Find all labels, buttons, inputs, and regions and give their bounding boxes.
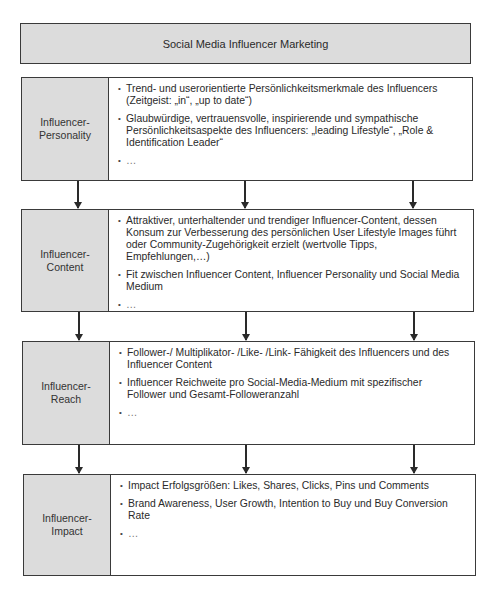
arrow-down-icon [245, 445, 247, 473]
diagram-title-box: Social Media Influencer Marketing [20, 23, 471, 64]
diagram-title: Social Media Influencer Marketing [163, 38, 329, 50]
layer-label-impact: Influencer- Impact [24, 475, 111, 575]
layer-label-content: Influencer- Content [22, 210, 109, 311]
arrow-down-icon [245, 312, 247, 340]
bullet-item-ellipsis: … [118, 155, 462, 167]
bullet-list: Impact Erfolgsgrößen: Likes, Shares, Cli… [120, 480, 465, 540]
bullet-item-ellipsis: … [120, 528, 465, 540]
arrow-down-icon [413, 312, 415, 340]
layer-content: Influencer- Content Attraktiver, unterha… [21, 209, 474, 312]
layer-impact: Influencer- Impact Impact Erfolgsgrößen:… [23, 474, 476, 576]
bullet-list: Follower-/ Multiplikator- /Like- /Link- … [119, 347, 464, 419]
layer-body-personality: Trend- und userorientierte Persönlichkei… [109, 78, 472, 180]
arrow-down-icon [78, 445, 80, 473]
bullet-item-ellipsis: … [118, 299, 463, 311]
bullet-item: Fit zwischen Influencer Content, Influen… [118, 269, 463, 293]
arrow-down-icon [412, 181, 414, 208]
arrow-down-icon [77, 181, 79, 208]
layer-body-impact: Impact Erfolgsgrößen: Likes, Shares, Cli… [111, 475, 475, 575]
arrow-down-icon [78, 312, 80, 340]
layer-label-reach: Influencer- Reach [23, 342, 110, 444]
layer-label-personality: Influencer- Personality [22, 78, 109, 180]
layer-body-content: Attraktiver, unterhaltender und trendige… [109, 210, 473, 311]
bullet-item: Glaubwürdige, vertrauensvolle, inspirier… [118, 113, 462, 149]
bullet-item: Impact Erfolgsgrößen: Likes, Shares, Cli… [120, 480, 465, 492]
layer-personality: Influencer- Personality Trend- und usero… [21, 77, 473, 181]
layer-reach: Influencer- Reach Follower-/ Multiplikat… [22, 341, 475, 445]
bullet-list: Trend- und userorientierte Persönlichkei… [118, 83, 462, 167]
bullet-item: Trend- und userorientierte Persönlichkei… [118, 83, 462, 107]
bullet-item: Brand Awareness, User Growth, Intention … [120, 498, 465, 522]
arrow-down-icon [413, 445, 415, 473]
bullet-item: Attraktiver, unterhaltender und trendige… [118, 215, 463, 263]
layer-body-reach: Follower-/ Multiplikator- /Like- /Link- … [110, 342, 474, 444]
arrow-down-icon [244, 181, 246, 208]
bullet-item-ellipsis: … [119, 407, 464, 419]
bullet-item: Influencer Reichweite pro Social-Media-M… [119, 377, 464, 401]
bullet-list: Attraktiver, unterhaltender und trendige… [118, 215, 463, 311]
bullet-item: Follower-/ Multiplikator- /Like- /Link- … [119, 347, 464, 371]
